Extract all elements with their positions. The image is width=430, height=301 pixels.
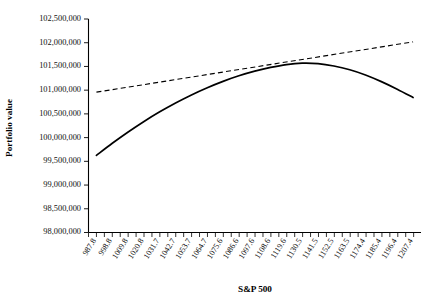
y-tick-label: 100,500,000 [39,109,81,118]
x-axis-title: S&P 500 [238,284,272,294]
linear-reference-line [96,42,413,92]
y-axis-tick-labels: 102,500,000102,000,000101,500,000101,000… [39,14,81,237]
y-tick-label: 100,000,000 [39,133,81,142]
y-tick-label: 98,000,000 [43,227,81,236]
x-tick-label: 987.8 [81,237,98,257]
portfolio-value-curve [96,63,413,155]
y-axis-ticks [84,19,89,233]
y-tick-label: 102,500,000 [39,14,81,23]
y-tick-label: 98,500,000 [43,204,81,213]
x-axis-tick-labels: 987.8998.81009.81020.81031.71042.71053.7… [81,237,415,261]
y-tick-label: 102,000,000 [39,38,81,47]
x-tick-label: 1108.6 [253,237,272,261]
y-axis: 102,500,000102,000,000101,500,000101,000… [39,14,88,237]
y-tick-label: 99,500,000 [43,156,81,165]
portfolio-value-chart: 102,500,000102,000,000101,500,000101,000… [0,0,430,301]
x-tick-label: 1207.4 [395,237,415,261]
y-tick-label: 101,500,000 [39,61,81,70]
y-tick-label: 99,000,000 [43,180,81,189]
chart-series [96,42,413,156]
chart-container: 102,500,000102,000,000101,500,000101,000… [0,0,430,301]
y-axis-title: Portfolio value [4,99,14,157]
y-tick-label: 101,000,000 [39,85,81,94]
x-axis: 987.8998.81009.81020.81031.71042.71053.7… [81,233,421,261]
